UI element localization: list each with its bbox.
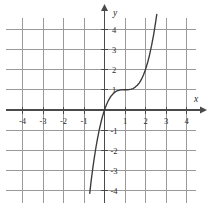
x-tick-label-pos3: 3 [164,116,168,126]
y-axis-label: y [112,8,118,18]
y-tick-label-neg4: -4 [110,186,118,196]
graph-figure: -4 -3 -2 -1 1 2 3 4 4 3 2 1 -1 -2 -3 -4 … [0,0,213,210]
y-axis-arrow-icon [101,4,108,11]
x-tick-label-neg2: -2 [60,116,67,126]
x-axis [6,107,207,114]
coordinate-plane: -4 -3 -2 -1 1 2 3 4 4 3 2 1 -1 -2 -3 -4 … [0,0,213,210]
x-tick-label-pos2: 2 [143,116,147,126]
x-tick-label-pos1: 1 [123,116,127,126]
x-axis-label: x [193,94,199,104]
x-tick-label-neg1: -1 [80,116,87,126]
y-tick-label-neg3: -3 [110,166,117,176]
y-tick-label-neg1: -1 [110,126,117,136]
x-tick-label-neg3: -3 [39,116,46,126]
y-tick-label-pos3: 3 [112,45,116,55]
y-tick-label-neg2: -2 [110,146,117,156]
y-tick-label-pos2: 2 [112,65,116,75]
cubic-function-curve [90,14,157,193]
x-axis-arrow-icon [200,107,207,114]
x-tick-label-neg4: -4 [19,116,27,126]
x-tick-label-pos4: 4 [184,116,189,126]
